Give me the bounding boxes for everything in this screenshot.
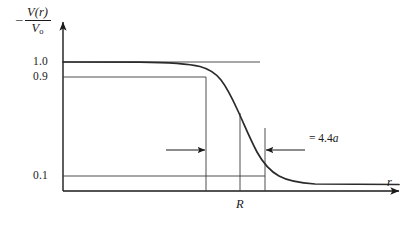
y-tick-label-0.1: 0.1 — [33, 170, 48, 182]
axis-lines — [63, 22, 399, 191]
y-axis-label-fraction: V(r) Vo — [25, 6, 51, 34]
potential-curve — [63, 62, 399, 185]
vertical-reference-lines — [206, 77, 265, 191]
y-tick-label-1.0: 1.0 — [33, 56, 48, 68]
plot-canvas — [0, 0, 418, 237]
x-tick-label-R: R — [236, 198, 244, 211]
y-axis-label-denominator: Vo — [30, 21, 46, 35]
surface-thickness-annotation: = 4.4a — [309, 133, 339, 145]
annotation-unit: a — [333, 132, 339, 144]
y-tick-label-0.9: 0.9 — [33, 71, 48, 83]
y-axis-label: – V(r) Vo — [16, 6, 51, 34]
y-axis-label-numerator: V(r) — [25, 6, 50, 20]
woods-saxon-potential-figure: – V(r) Vo 1.0 0.9 0.1 R r = 4.4a — [0, 0, 418, 237]
y-axis-label-sign: – — [16, 11, 23, 29]
y-axis-denominator-sub: o — [39, 26, 43, 36]
horizontal-guide-lines — [63, 62, 265, 176]
x-axis-label: r — [387, 176, 392, 189]
annotation-value: = 4.4 — [309, 132, 333, 144]
